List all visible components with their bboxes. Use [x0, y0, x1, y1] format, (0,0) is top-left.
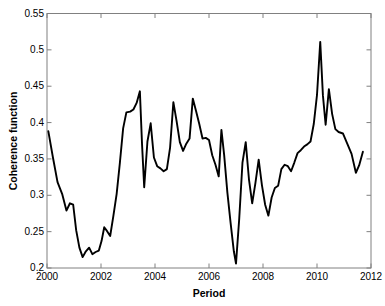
data-line-coherence-function	[48, 42, 363, 264]
plot-area	[0, 0, 385, 306]
chart-figure: Coherence function 0.20.250.30.350.40.45…	[0, 0, 385, 306]
